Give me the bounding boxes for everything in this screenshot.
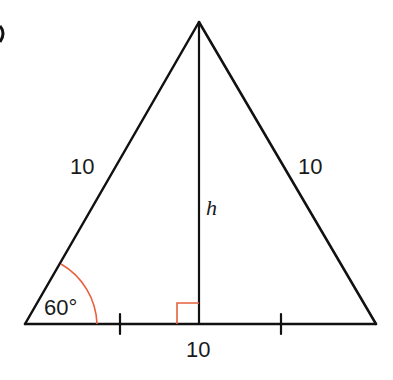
triangle-diagram: 10 10 h 60° 10 xyxy=(0,0,393,380)
part-marker-paren xyxy=(0,26,3,42)
right-side xyxy=(199,22,376,324)
left-side xyxy=(25,22,199,324)
label-right-side: 10 xyxy=(298,154,322,179)
label-angle: 60° xyxy=(44,295,77,320)
label-base: 10 xyxy=(186,337,210,362)
label-altitude: h xyxy=(206,195,217,220)
right-angle-marker xyxy=(177,303,199,324)
label-left-side: 10 xyxy=(70,154,94,179)
